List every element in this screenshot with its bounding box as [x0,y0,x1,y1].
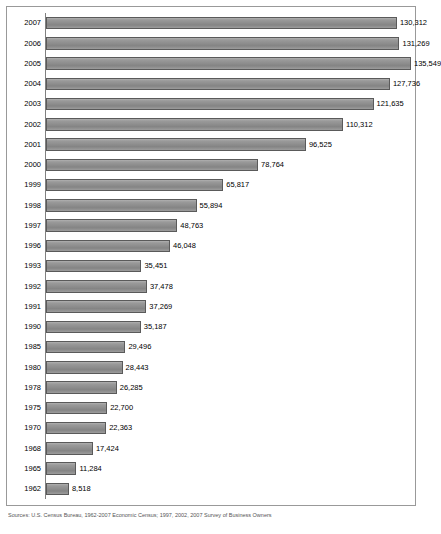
bar-wrap: 11,284 [46,459,411,479]
value-label: 22,363 [106,424,132,432]
value-label: 29,496 [125,343,151,351]
category-label: 2000 [11,161,45,169]
value-label: 37,269 [146,303,172,311]
bar-wrap: 121,635 [46,94,411,114]
category-label: 1965 [11,465,45,473]
category-label: 2002 [11,121,45,129]
bar-wrap: 110,312 [46,114,411,134]
bar [46,219,177,232]
bar [46,179,223,192]
bar-row: 2002110,312 [11,114,411,134]
bar-row: 199237,478 [11,276,411,296]
category-label: 1999 [11,181,45,189]
category-label: 1975 [11,404,45,412]
bar-wrap: 35,187 [46,317,411,337]
bar-zone: 37,478 [45,276,411,296]
bar-zone: 46,048 [45,236,411,256]
chart-frame: 2007130,3122006131,2692005135,5492004127… [6,6,416,506]
value-label: 35,187 [141,323,167,331]
bar [46,300,146,313]
category-label: 1970 [11,424,45,432]
bar-zone: 22,363 [45,418,411,438]
category-label: 2007 [11,19,45,27]
category-label: 1978 [11,384,45,392]
bar-wrap: 55,894 [46,195,411,215]
value-label: 127,736 [390,80,420,88]
bar [46,462,76,475]
category-label: 1992 [11,283,45,291]
category-label: 1996 [11,242,45,250]
bar [46,442,93,455]
bar-row: 197522,700 [11,398,411,418]
bar-zone: 131,269 [45,33,411,53]
value-label: 131,269 [399,40,429,48]
bar-wrap: 127,736 [46,74,411,94]
bar-zone: 135,549 [45,54,411,74]
bar-row: 2003121,635 [11,94,411,114]
category-label: 2003 [11,100,45,108]
bar [46,341,125,354]
bar-wrap: 28,443 [46,357,411,377]
bar [46,381,117,394]
category-label: 1980 [11,364,45,372]
bar-wrap: 78,764 [46,155,411,175]
bar-wrap: 96,525 [46,135,411,155]
bar-zone: 22,700 [45,398,411,418]
value-label: 110,312 [343,121,373,129]
bar-row: 199335,451 [11,256,411,276]
bar-row: 2005135,549 [11,54,411,74]
bar [46,37,399,50]
bar-zone: 37,269 [45,297,411,317]
bar [46,483,69,496]
bar-zone: 35,451 [45,256,411,276]
category-label: 2004 [11,80,45,88]
bar-wrap: 22,363 [46,418,411,438]
bar-row: 196511,284 [11,459,411,479]
bar-row: 198028,443 [11,357,411,377]
bar-row: 196817,424 [11,438,411,458]
bar-zone: 8,518 [45,479,411,499]
value-label: 35,451 [141,262,167,270]
category-label: 2005 [11,60,45,68]
bar [46,321,141,334]
bar-wrap: 46,048 [46,236,411,256]
bar [46,280,147,293]
category-label: 1962 [11,485,45,493]
category-label: 1998 [11,202,45,210]
bar [46,240,170,253]
bar-zone: 26,285 [45,378,411,398]
value-label: 28,443 [123,364,149,372]
bar-wrap: 26,285 [46,378,411,398]
bar [46,118,343,131]
bar-wrap: 135,549 [46,54,411,74]
category-label: 1990 [11,323,45,331]
bar-wrap: 131,269 [46,33,411,53]
bar-row: 200078,764 [11,155,411,175]
bar-zone: 35,187 [45,317,411,337]
value-label: 17,424 [93,445,119,453]
bar-zone: 110,312 [45,114,411,134]
bar [46,199,197,212]
bar-wrap: 130,312 [46,13,411,33]
bar-zone: 17,424 [45,438,411,458]
bar-row: 199965,817 [11,175,411,195]
value-label: 130,312 [397,19,427,27]
category-label: 2001 [11,141,45,149]
bar-zone: 11,284 [45,459,411,479]
value-label: 37,478 [147,283,173,291]
bar-row: 2006131,269 [11,33,411,53]
bar-zone: 65,817 [45,175,411,195]
value-label: 11,284 [76,465,101,473]
category-label: 1993 [11,262,45,270]
bar-zone: 28,443 [45,357,411,377]
bar [46,159,258,172]
bar-zone: 130,312 [45,13,411,33]
value-label: 65,817 [223,181,249,189]
bar-zone: 48,763 [45,216,411,236]
bar-row: 197826,285 [11,378,411,398]
bar-zone: 55,894 [45,195,411,215]
bar [46,57,411,70]
bar [46,138,306,151]
bar-chart-plot: 2007130,3122006131,2692005135,5492004127… [7,7,415,505]
